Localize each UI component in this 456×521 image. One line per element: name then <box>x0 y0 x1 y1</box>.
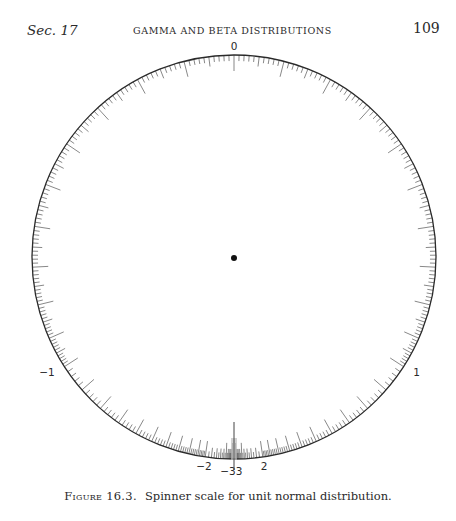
tick-mark <box>424 307 430 309</box>
tick-mark <box>51 172 56 175</box>
tick-mark <box>340 87 343 92</box>
tick-mark <box>388 133 393 137</box>
tick-mark <box>42 193 48 195</box>
tick-mark <box>193 449 194 455</box>
tick-mark <box>287 63 289 69</box>
tick-mark <box>53 345 58 348</box>
tick-mark <box>324 420 332 434</box>
tick-mark <box>209 57 210 67</box>
tick-mark <box>63 361 68 364</box>
tick-mark <box>113 96 117 101</box>
tick-mark <box>293 444 295 450</box>
tick-mark <box>260 441 262 457</box>
tick-mark <box>426 297 432 298</box>
tick-mark <box>301 67 303 73</box>
tick-mark <box>64 358 77 367</box>
tick-mark <box>173 444 175 450</box>
tick-mark <box>67 144 80 153</box>
tick-mark <box>425 214 431 215</box>
tick-mark <box>46 330 52 332</box>
tick-mark <box>133 82 136 87</box>
tick-mark <box>115 415 119 420</box>
tick-mark <box>41 314 47 316</box>
tick-mark <box>178 436 182 451</box>
tick-mark <box>168 442 170 448</box>
tick-mark <box>376 118 380 122</box>
tick-mark <box>49 332 64 338</box>
tick-mark <box>75 133 80 137</box>
tick-mark <box>343 420 346 425</box>
tick-mark <box>208 451 209 457</box>
tick-mark <box>46 184 61 190</box>
tick-mark <box>303 441 305 447</box>
tick-mark <box>374 394 378 398</box>
tick-mark <box>146 75 149 80</box>
tick-mark <box>280 448 281 454</box>
tick-mark <box>55 348 60 351</box>
tick-mark <box>39 307 45 309</box>
tick-mark <box>126 422 129 427</box>
tick-mark <box>427 293 433 294</box>
tick-mark <box>359 102 363 107</box>
tick-mark <box>155 437 157 443</box>
tick-mark <box>421 197 427 199</box>
tick-mark <box>38 301 54 305</box>
tick-mark <box>57 160 62 163</box>
tick-mark <box>399 148 404 151</box>
scale-label: 3 <box>236 465 243 477</box>
tick-mark <box>357 410 361 415</box>
tick-mark <box>415 180 421 182</box>
tick-mark <box>263 451 264 457</box>
tick-mark <box>295 443 297 449</box>
center-dot <box>231 255 237 261</box>
tick-mark <box>35 222 41 223</box>
tick-mark <box>402 358 407 361</box>
tick-mark <box>403 356 408 359</box>
tick-mark <box>267 440 270 456</box>
tick-mark <box>428 282 434 283</box>
tick-mark <box>360 108 371 120</box>
tick-mark <box>53 168 58 171</box>
tick-mark <box>142 77 145 82</box>
tick-mark <box>176 445 178 451</box>
tick-mark <box>187 448 188 454</box>
tick-mark <box>68 368 73 371</box>
tick-mark <box>226 443 227 459</box>
tick-mark <box>297 432 302 447</box>
tick-mark <box>78 382 83 386</box>
tick-mark <box>33 275 39 276</box>
tick-mark <box>205 441 207 457</box>
tick-mark <box>94 111 98 115</box>
tick-mark <box>391 136 396 140</box>
tick-mark <box>408 348 413 351</box>
tick-mark <box>378 390 382 394</box>
tick-mark <box>139 430 142 435</box>
tick-mark <box>323 432 326 437</box>
tick-mark <box>263 57 264 63</box>
tick-mark <box>412 339 417 342</box>
tick-mark <box>171 443 173 449</box>
tick-mark <box>33 235 39 236</box>
tick-mark <box>198 440 201 456</box>
tick-mark <box>211 448 212 458</box>
tick-mark <box>418 226 434 228</box>
tick-mark <box>259 451 260 457</box>
tick-mark <box>422 314 428 316</box>
tick-mark <box>58 353 63 356</box>
tick-mark <box>38 210 44 211</box>
tick-mark <box>241 443 242 459</box>
tick-mark <box>400 361 405 364</box>
tick-mark <box>282 447 283 453</box>
tick-mark <box>379 125 387 132</box>
tick-mark <box>42 317 48 319</box>
tick-mark <box>93 397 97 401</box>
tick-mark <box>170 66 172 72</box>
tick-mark <box>194 59 195 65</box>
tick-mark <box>34 285 44 286</box>
tick-mark <box>40 310 46 312</box>
tick-mark <box>353 413 357 418</box>
tick-mark <box>367 401 371 405</box>
tick-mark <box>424 285 434 286</box>
tick-mark <box>385 382 390 386</box>
tick-mark <box>36 297 42 298</box>
